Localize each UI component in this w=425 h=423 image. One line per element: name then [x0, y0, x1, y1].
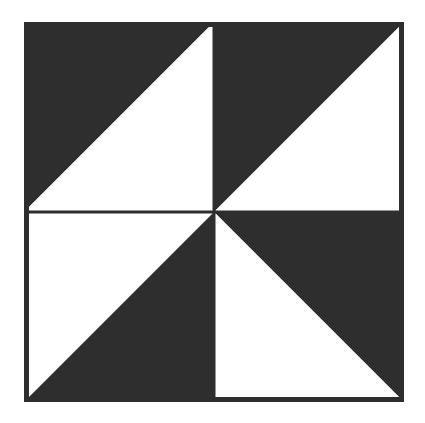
pinwheel-svg: [0, 0, 425, 423]
figure-canvas: [0, 0, 425, 423]
